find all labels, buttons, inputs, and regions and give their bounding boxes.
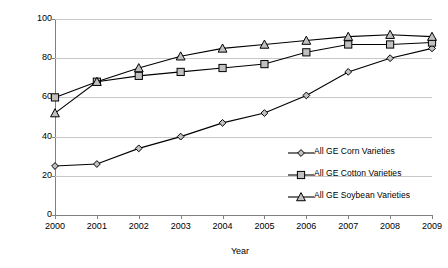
- y-tick: 100: [26, 19, 52, 20]
- y-tick: 20: [26, 176, 52, 177]
- diamond-marker: [52, 163, 59, 170]
- x-tick-mark: [348, 216, 349, 219]
- square-marker: [297, 171, 304, 178]
- diamond-marker: [219, 119, 226, 126]
- square-marker: [303, 49, 310, 56]
- square-marker: [219, 64, 226, 71]
- series-all-ge-soybean-varieties: [51, 30, 437, 117]
- diamond-marker: [298, 150, 305, 157]
- x-tick-label: 2002: [119, 221, 159, 231]
- diamond-marker: [135, 145, 142, 152]
- triangle-marker: [51, 109, 60, 117]
- x-tick-mark: [264, 216, 265, 219]
- square-marker: [345, 41, 352, 48]
- x-tick-mark: [223, 216, 224, 219]
- diamond-marker: [345, 69, 352, 76]
- chart-legend: All GE Corn VarietiesAll GE Cotton Varie…: [288, 140, 438, 206]
- x-tick-mark: [55, 216, 56, 219]
- series-all-ge-cotton-varieties: [51, 39, 435, 101]
- diamond-marker: [261, 110, 268, 117]
- legend-label: All GE Soybean Varieties: [314, 190, 410, 200]
- x-tick-mark: [432, 216, 433, 219]
- y-tick-label: 80: [28, 52, 52, 62]
- square-marker: [387, 41, 394, 48]
- square-legend-marker-icon: [288, 167, 314, 179]
- diamond-legend-marker-icon: [288, 145, 314, 157]
- diamond-marker: [303, 92, 310, 99]
- y-tick-label: 20: [28, 170, 52, 180]
- x-tick-label: 2005: [244, 221, 284, 231]
- x-tick-mark: [390, 216, 391, 219]
- x-axis-title: Year: [40, 246, 440, 256]
- square-marker: [135, 72, 142, 79]
- series-line: [55, 35, 432, 113]
- y-tick: 80: [26, 58, 52, 59]
- diamond-marker: [93, 161, 100, 168]
- diamond-marker: [177, 133, 184, 140]
- x-tick-label: 2007: [328, 221, 368, 231]
- y-tick-label: 100: [28, 13, 52, 23]
- chart-container: Percent of corn, cotton, and soybean acr…: [0, 0, 448, 268]
- y-tick-label: 40: [28, 131, 52, 141]
- x-tick-label: 2006: [286, 221, 326, 231]
- square-marker: [51, 94, 58, 101]
- legend-label: All GE Cotton Varieties: [314, 168, 401, 178]
- x-tick-mark: [97, 216, 98, 219]
- legend-label: All GE Corn Varieties: [314, 146, 395, 156]
- x-tick-mark: [139, 216, 140, 219]
- square-marker: [177, 68, 184, 75]
- legend-item: All GE Corn Varieties: [288, 140, 438, 162]
- y-tick-label: 0: [28, 209, 52, 219]
- y-tick-label: 60: [28, 91, 52, 101]
- y-tick: 0: [26, 215, 52, 216]
- legend-item: All GE Cotton Varieties: [288, 162, 438, 184]
- square-marker: [261, 60, 268, 67]
- x-axis-line: [55, 215, 433, 216]
- triangle-legend-marker-icon: [288, 189, 314, 201]
- legend-item: All GE Soybean Varieties: [288, 184, 438, 206]
- series-line: [55, 43, 432, 98]
- x-tick-label: 2001: [77, 221, 117, 231]
- x-tick-label: 2004: [203, 221, 243, 231]
- x-tick-label: 2000: [35, 221, 75, 231]
- diamond-marker: [387, 55, 394, 62]
- x-tick-mark: [306, 216, 307, 219]
- y-tick: 60: [26, 97, 52, 98]
- x-tick-label: 2008: [370, 221, 410, 231]
- x-tick-label: 2003: [161, 221, 201, 231]
- x-tick-label: 2009: [412, 221, 448, 231]
- x-tick-mark: [181, 216, 182, 219]
- y-tick: 40: [26, 137, 52, 138]
